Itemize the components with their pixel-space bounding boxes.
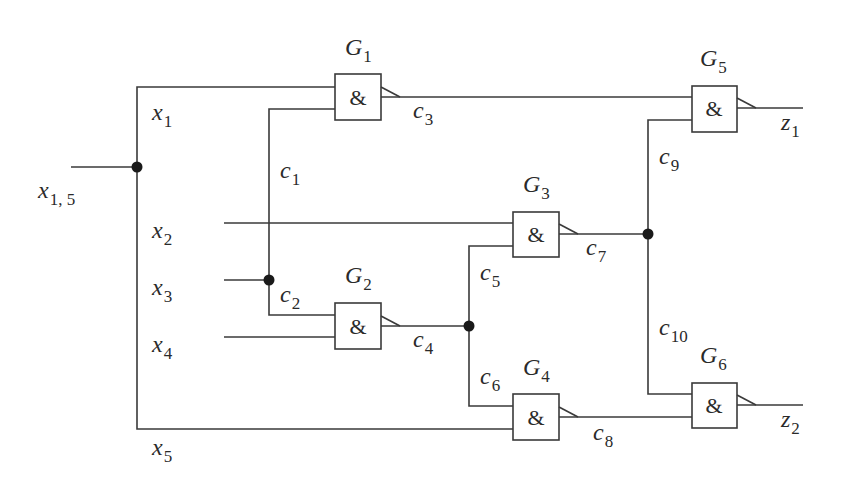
signal-label-c4: c4 bbox=[413, 326, 434, 358]
signal-label-c5: c5 bbox=[480, 259, 500, 291]
gate-g6-label: G6 bbox=[700, 342, 727, 374]
gate-g5: & bbox=[692, 86, 756, 132]
wire-c9 bbox=[648, 120, 692, 234]
junction-dot-c4 bbox=[464, 321, 475, 332]
signal-label-x1: x1 bbox=[151, 99, 172, 131]
signal-label-x5: x5 bbox=[151, 434, 172, 466]
gate-g1-label: G1 bbox=[345, 34, 372, 66]
gate-g4-label: G4 bbox=[523, 354, 550, 386]
gate-g4-symbol: & bbox=[527, 405, 544, 430]
gate-g5-label: G5 bbox=[700, 45, 727, 77]
signal-label-c8: c8 bbox=[593, 419, 613, 451]
signal-label-c6: c6 bbox=[480, 363, 500, 395]
signal-label-z1: z1 bbox=[780, 109, 800, 141]
signal-label-x3: x3 bbox=[151, 274, 172, 306]
gate-g3-label: G3 bbox=[523, 171, 550, 203]
signal-label-c10: c10 bbox=[659, 314, 688, 346]
signal-label-z2: z2 bbox=[780, 406, 800, 438]
signal-label-c7: c7 bbox=[586, 234, 607, 266]
signal-label-c9: c9 bbox=[659, 143, 679, 175]
signal-label-x15: x1, 5 bbox=[37, 177, 75, 209]
gate-g3-symbol: & bbox=[527, 222, 544, 247]
signal-label-x4: x4 bbox=[151, 331, 173, 363]
junction-dot-c7 bbox=[643, 229, 654, 240]
gate-g5-symbol: & bbox=[705, 96, 722, 121]
wire-c10 bbox=[648, 234, 692, 394]
gate-g2-symbol: & bbox=[349, 314, 366, 339]
logic-circuit-diagram: & & & & & & G1 G2 G3 G4 G5 G6 x1, 5 x1 x… bbox=[0, 0, 846, 487]
junction-dot-x3 bbox=[264, 275, 275, 286]
signal-label-c2: c2 bbox=[280, 281, 300, 313]
wire-c1 bbox=[269, 109, 335, 280]
gate-g6-symbol: & bbox=[705, 393, 722, 418]
signal-label-x2: x2 bbox=[151, 217, 172, 249]
junction-dot-x15 bbox=[132, 162, 143, 173]
gate-g2-label: G2 bbox=[345, 262, 372, 294]
wire-c2 bbox=[269, 280, 335, 315]
wire-x5 bbox=[137, 167, 513, 429]
gate-g1-symbol: & bbox=[349, 85, 366, 110]
signal-label-c1: c1 bbox=[280, 157, 300, 189]
signal-label-c3: c3 bbox=[413, 97, 433, 129]
